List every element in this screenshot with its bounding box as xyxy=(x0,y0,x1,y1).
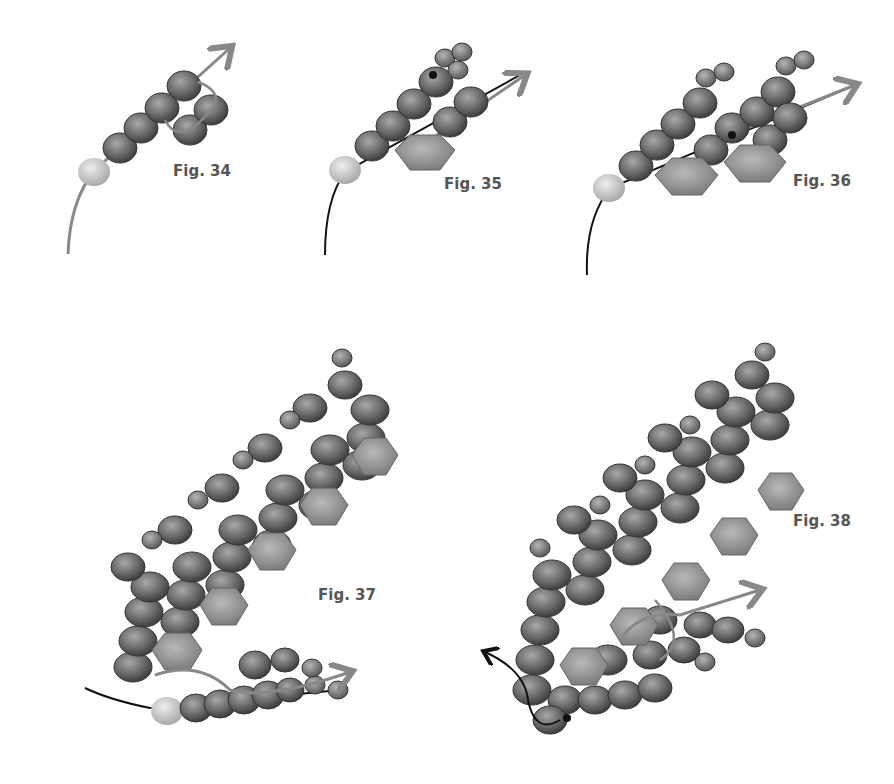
fig-34-label: Fig. 34 xyxy=(173,162,231,180)
fig-37-label: Fig. 37 xyxy=(318,586,376,604)
figure-35 xyxy=(325,43,525,255)
figure-36 xyxy=(587,51,855,275)
figure-37 xyxy=(85,349,398,725)
figure-38 xyxy=(485,343,804,734)
fig-35-label: Fig. 35 xyxy=(444,175,502,193)
beading-diagram xyxy=(0,0,894,784)
fig-36-label: Fig. 36 xyxy=(793,172,851,190)
figure-34 xyxy=(68,48,230,254)
fig-38-label: Fig. 38 xyxy=(793,512,851,530)
